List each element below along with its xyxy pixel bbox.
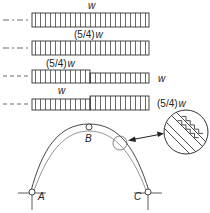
load-label-left-w: w [58,85,66,96]
point-label-a: A [37,191,45,202]
load-case-4: w (5/4)w [3,85,187,110]
load-label-left-5-4-w: (5/4)w [46,58,76,69]
load-label-right-w: w [158,73,166,84]
point-label-c: C [134,191,142,202]
load-case-2: (5/4)w [3,29,149,55]
load-case-3: (5/4)w w [3,58,166,84]
load-label-right-5-4-w: (5/4)w [157,98,187,109]
hinge-b [86,124,92,130]
hinge-c [145,189,151,195]
load-label-w: w [88,0,96,11]
double-arrow-icon [128,132,164,143]
point-label-b: B [85,133,92,144]
load-label-5-4-w: (5/4)w [74,29,104,40]
load-case-1: w [3,0,149,27]
detail-marker [113,136,127,150]
hinge-a [29,189,35,195]
arch: A B C [18,124,162,210]
magnified-section-detail [160,110,208,158]
